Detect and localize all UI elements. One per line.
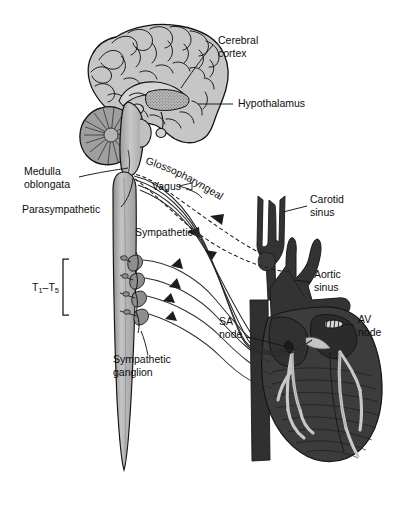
label-parasympathetic: Parasympathetic — [22, 203, 100, 215]
label-sympathetic: Sympathetic — [135, 226, 193, 238]
label-av-node-line1: AV — [358, 313, 371, 325]
label-sympathetic-ganglion-line2: ganglion — [113, 366, 153, 378]
thalamus-stipple-region — [146, 90, 189, 111]
label-hypothalamus: Hypothalamus — [238, 97, 305, 109]
label-aortic-sinus-line1: Aortic — [314, 268, 341, 280]
label-sa-node-line1: SA — [219, 315, 233, 327]
label-sa-node-line2: node — [219, 328, 243, 340]
label-carotid-sinus-line1: Carotid — [310, 193, 344, 205]
label-av-node-line2: node — [358, 326, 382, 338]
label-medulla-line1: Medulla — [24, 165, 61, 177]
pituitary-gland — [156, 129, 166, 138]
anatomy-figure: Cerebral cortex Hypothalamus Medulla obl… — [0, 0, 400, 506]
label-vagus: Vagus — [152, 180, 181, 192]
label-medulla-line2: oblongata — [24, 178, 70, 190]
label-carotid-sinus-line2: sinus — [310, 206, 335, 218]
label-cerebral-cortex-line1: Cerebral — [218, 34, 258, 46]
label-cerebral-cortex-line2: cortex — [218, 47, 247, 59]
label-sympathetic-ganglion-line1: Sympathetic — [113, 353, 171, 365]
label-aortic-sinus-line2: sinus — [314, 281, 339, 293]
